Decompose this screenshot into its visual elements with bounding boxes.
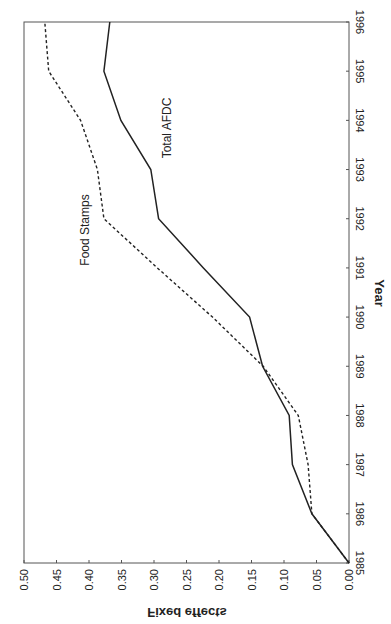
x-axis-title: Year: [372, 279, 387, 306]
food-stamps-label: Food Stamps: [78, 194, 92, 265]
year-tick-label: 1994: [354, 108, 366, 132]
total-afdc-label: Total AFDC: [160, 97, 174, 158]
y-axis-title: Fixed effects: [147, 605, 226, 620]
year-tick-label: 1991: [354, 256, 366, 280]
year-tick-label: 1992: [354, 206, 366, 230]
year-tick-label: 1985: [354, 551, 366, 575]
year-tick-label: 1987: [354, 452, 366, 476]
plot-frame: [24, 22, 349, 563]
total-afdc-line: [104, 22, 349, 563]
year-tick-label: 1989: [354, 354, 366, 378]
fixed-effects-chart: 0.000.050.100.150.200.250.300.350.400.45…: [0, 0, 391, 624]
value-tick-label: 0.15: [246, 569, 258, 590]
value-tick-label: 0.35: [116, 569, 128, 590]
value-axis-ticks: 0.000.050.100.150.200.250.300.350.400.45…: [18, 560, 355, 590]
year-tick-label: 1988: [354, 403, 366, 427]
value-tick-label: 0.50: [18, 569, 30, 590]
value-tick-label: 0.20: [213, 569, 225, 590]
value-tick-label: 0.30: [148, 569, 160, 590]
value-tick-label: 0.10: [278, 569, 290, 590]
value-tick-label: 0.25: [181, 569, 193, 590]
year-tick-label: 1986: [354, 502, 366, 526]
food-stamps-line: [45, 22, 349, 563]
value-tick-label: 0.05: [311, 569, 323, 590]
value-tick-label: 0.40: [83, 569, 95, 590]
value-tick-label: 0.45: [51, 569, 63, 590]
year-tick-label: 1990: [354, 305, 366, 329]
year-tick-label: 1996: [354, 10, 366, 34]
value-tick-label: 0.00: [343, 569, 355, 590]
year-tick-label: 1995: [354, 59, 366, 83]
year-tick-label: 1993: [354, 157, 366, 181]
chart-canvas: 0.000.050.100.150.200.250.300.350.400.45…: [0, 0, 391, 624]
